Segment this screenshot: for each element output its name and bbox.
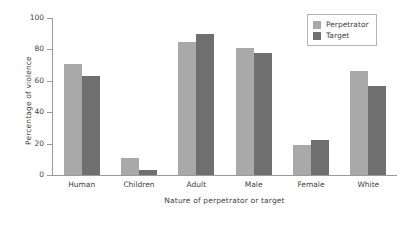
bar-chart: Percentage of violence 020406080100 Huma… [0,0,407,226]
bar-perpetrator [350,71,368,175]
y-axis-tick-label: 60 [34,76,44,85]
y-axis-tick: 100 [47,18,52,19]
bar-target [254,53,272,175]
x-axis-category-label: Children [110,180,167,189]
legend-item-target: Target [313,30,369,41]
bar-group: Adult [168,18,225,175]
y-axis-tick-label: 20 [34,139,44,148]
x-axis-category-label: Male [225,180,282,189]
y-axis-title: Percentage of violence [24,21,33,181]
y-axis-tick: 60 [47,81,52,82]
legend-label: Target [326,31,349,40]
bar-group: Children [110,18,167,175]
legend: Perpetrator Target [307,14,377,46]
y-axis-tick-label: 0 [39,170,44,179]
y-axis-tick: 80 [47,49,52,50]
legend-swatch-icon [313,21,321,29]
bar-target [82,76,100,175]
x-axis-category-label: Human [53,180,110,189]
bar-target [196,34,214,175]
y-axis-tick-label: 80 [34,44,44,53]
x-axis-category-label: Adult [168,180,225,189]
bar-group: Human [53,18,110,175]
bar-perpetrator [178,42,196,175]
legend-label: Perpetrator [326,20,369,29]
bar-perpetrator [293,145,311,175]
legend-item-perpetrator: Perpetrator [313,19,369,30]
y-axis-tick-label: 40 [34,107,44,116]
y-axis-tick: 20 [47,144,52,145]
bar-perpetrator [236,48,254,175]
legend-swatch-icon [313,32,321,40]
y-axis-tick-label: 100 [30,13,44,22]
x-axis-category-label: Female [282,180,339,189]
bar-target [139,170,157,175]
bar-perpetrator [64,64,82,175]
x-axis-line [52,175,397,176]
x-axis-category-label: White [340,180,397,189]
x-axis-title: Nature of perpetrator or target [52,196,397,205]
bar-perpetrator [121,158,139,175]
y-axis-tick: 0 [47,175,52,176]
y-axis-tick: 40 [47,112,52,113]
bar-target [368,86,386,175]
bar-target [311,140,329,175]
bar-group: Male [225,18,282,175]
